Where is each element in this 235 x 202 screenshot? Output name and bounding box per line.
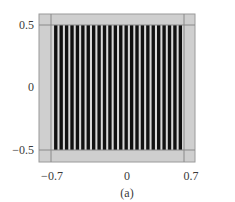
grating-stripe (81, 25, 84, 150)
grating-stripe (157, 25, 160, 150)
y-tick-label-bottom: −0.5 (12, 143, 34, 157)
grating-stripe (114, 25, 117, 150)
grating-stripe (119, 25, 122, 150)
x-tick-label-mid: 0 (124, 169, 130, 183)
grating-stripe (179, 25, 182, 150)
figure: 0.5 0 −0.5 −0.7 0 0.7 (a) (0, 0, 235, 202)
grating-stripe (92, 25, 95, 150)
grating-stripe (141, 25, 144, 150)
grating-stripe (54, 25, 57, 150)
grating-stripe (60, 25, 63, 150)
grating-stripe (97, 25, 100, 150)
grating-stripe (65, 25, 68, 150)
y-tick-label-mid: 0 (28, 80, 34, 94)
grating-stripe (125, 25, 128, 150)
grating-stripe (135, 25, 138, 150)
grating-stripe (162, 25, 165, 150)
figure-caption: (a) (120, 186, 133, 200)
x-tick-label-right: 0.7 (184, 169, 199, 183)
grating-stripe (146, 25, 149, 150)
grating-stripe (76, 25, 79, 150)
grating-stripe (103, 25, 106, 150)
grating-stripe (152, 25, 155, 150)
grating-stripe (108, 25, 111, 150)
grating-stripe (87, 25, 90, 150)
y-tick-label-top: 0.5 (19, 18, 34, 32)
grating-stripe (168, 25, 171, 150)
grating-stripe (70, 25, 73, 150)
grating-stripe (130, 25, 133, 150)
grating-stripe (173, 25, 176, 150)
x-tick-label-left: −0.7 (41, 169, 63, 183)
